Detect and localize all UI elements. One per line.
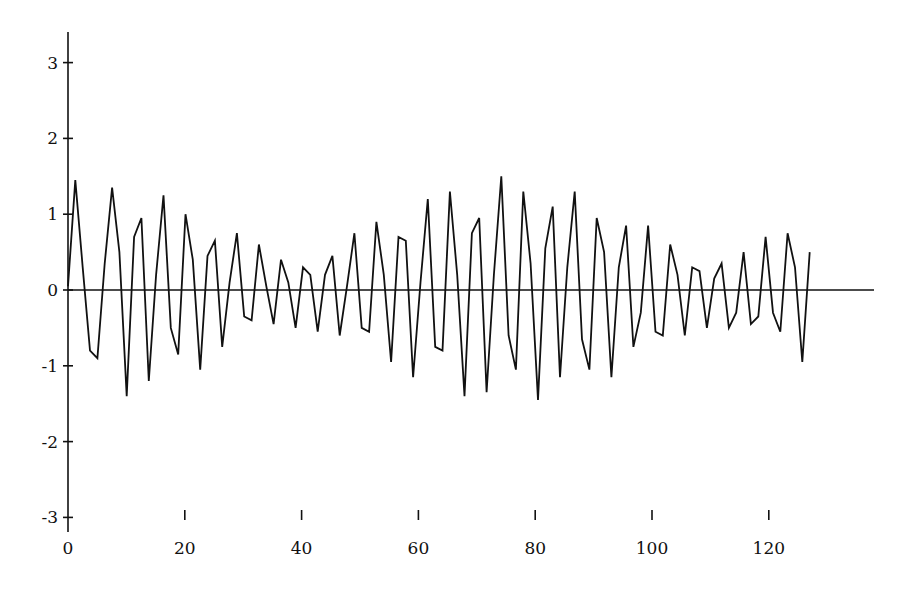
y-tick-label: 2 — [47, 128, 58, 148]
y-tick-label: -2 — [41, 432, 58, 452]
y-tick-label: 1 — [47, 204, 58, 224]
y-tick-label: 3 — [47, 53, 58, 73]
y-tick-label: 0 — [47, 280, 58, 300]
x-axis-ticks: 020406080100120 — [63, 510, 785, 558]
x-tick-label: 20 — [174, 538, 196, 558]
signal-line — [68, 176, 810, 400]
x-tick-label: 100 — [636, 538, 668, 558]
x-tick-label: 80 — [524, 538, 546, 558]
y-tick-label: -3 — [41, 507, 58, 527]
x-tick-label: 0 — [63, 538, 74, 558]
x-tick-label: 120 — [753, 538, 785, 558]
line-chart: 3210-1-2-3 020406080100120 — [0, 0, 902, 593]
x-tick-label: 60 — [408, 538, 430, 558]
y-tick-label: -1 — [41, 356, 58, 376]
x-tick-label: 40 — [291, 538, 313, 558]
